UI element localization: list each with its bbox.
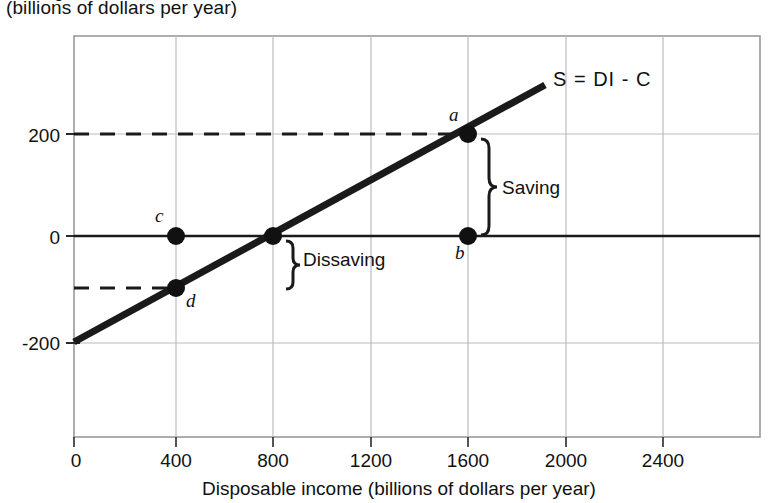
saving-annotation-label: Saving (502, 177, 560, 199)
x-tick-label-2000: 2000 (540, 450, 592, 472)
data-point-c (167, 227, 185, 245)
x-tick-label-0: 0 (66, 450, 86, 472)
plot-canvas (0, 0, 777, 503)
point-label-b: b (455, 242, 465, 264)
x-tick-label-1600: 1600 (442, 450, 494, 472)
point-label-c: c (155, 205, 163, 227)
x-tick-label-400: 400 (152, 450, 200, 472)
y-tick-label-200: 200 (10, 125, 60, 147)
dissaving-annotation-label: Dissaving (303, 249, 385, 271)
x-tick-label-1200: 1200 (345, 450, 397, 472)
y-tick-label-0: 0 (10, 227, 60, 249)
x-axis-ticks (74, 437, 663, 447)
equation-label: S = DI - C (553, 68, 651, 91)
y-tick-label-minus200: -200 (0, 333, 60, 355)
x-axis-title: Disposable income (billions of dollars p… (202, 478, 596, 500)
point-label-d: d (186, 290, 196, 312)
x-tick-label-2400: 2400 (637, 450, 689, 472)
x-tick-label-800: 800 (249, 450, 297, 472)
data-point-a (459, 125, 477, 143)
data-point-d (167, 279, 185, 297)
point-label-a: a (449, 104, 459, 126)
savings-function-chart: Saving (billions of dollars per year) (0, 0, 777, 503)
data-point-breakeven (264, 227, 282, 245)
